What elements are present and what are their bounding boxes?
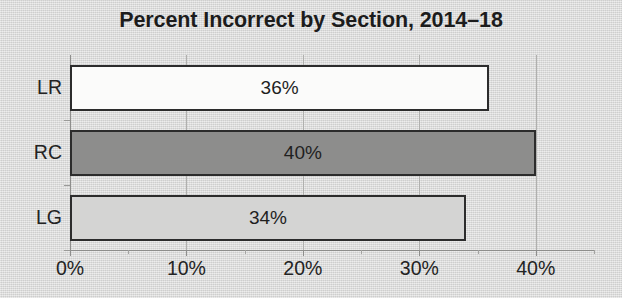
x-tick-major-0 bbox=[70, 250, 71, 256]
bar-lg: 34% bbox=[70, 195, 466, 241]
bar-rc: 40% bbox=[70, 130, 536, 176]
x-tick-minor-45 bbox=[594, 250, 595, 254]
x-axis-label-0: 0% bbox=[30, 257, 110, 280]
x-tick-minor-5 bbox=[128, 250, 129, 254]
chart-title: Percent Incorrect by Section, 2014–18 bbox=[0, 8, 622, 33]
y-tick-0 bbox=[64, 120, 70, 121]
y-tick-1 bbox=[64, 185, 70, 186]
x-axis-label-40: 40% bbox=[496, 257, 576, 280]
x-tick-minor-25 bbox=[361, 250, 362, 254]
x-tick-major-40 bbox=[536, 250, 537, 256]
gridline-x-40 bbox=[536, 55, 537, 250]
y-axis-category-label-rc: RC bbox=[4, 141, 62, 164]
bar-value-label-lr: 36% bbox=[261, 77, 299, 99]
x-tick-major-30 bbox=[419, 250, 420, 256]
y-axis-category-label-lr: LR bbox=[4, 76, 62, 99]
bar-value-label-lg: 34% bbox=[249, 207, 287, 229]
x-tick-minor-15 bbox=[245, 250, 246, 254]
x-axis-label-20: 20% bbox=[263, 257, 343, 280]
x-axis-label-30: 30% bbox=[379, 257, 459, 280]
x-tick-major-20 bbox=[303, 250, 304, 256]
y-tick-2 bbox=[64, 250, 70, 251]
x-axis-line bbox=[70, 250, 594, 251]
bar-value-label-rc: 40% bbox=[284, 142, 322, 164]
x-axis-label-10: 10% bbox=[146, 257, 226, 280]
y-axis-category-label-lg: LG bbox=[4, 206, 62, 229]
x-tick-minor-35 bbox=[478, 250, 479, 254]
x-tick-major-10 bbox=[186, 250, 187, 256]
bar-lr: 36% bbox=[70, 65, 489, 111]
